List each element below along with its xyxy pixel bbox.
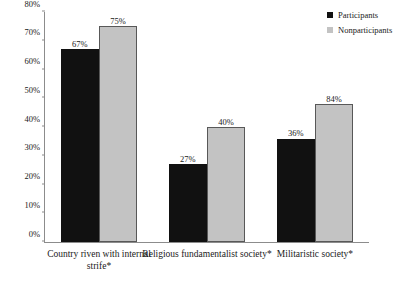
plot-area: 0%10%20%30%40%50%60%70%80% 67%75%Country… (44, 12, 369, 243)
y-axis-tick-label: 20% (24, 172, 40, 181)
y-axis-tick-label: 0% (29, 229, 40, 238)
y-axis-tick-label: 50% (24, 86, 40, 95)
bar-value-label: 36% (288, 129, 304, 138)
y-axis-tick-label: 30% (24, 143, 40, 152)
bar-value-label: 67% (72, 40, 88, 49)
bar-group: 27%40%Religious fundamentalist society* (153, 12, 261, 242)
bar-nonparticipants: 40% (207, 127, 245, 242)
bar-chart: Participants Nonparticipants 0%10%20%30%… (0, 0, 409, 285)
bar-value-label: 75% (110, 17, 126, 26)
bar-participants: 36% (277, 139, 315, 243)
y-axis-tick-label: 40% (24, 114, 40, 123)
x-axis-category-label: Militaristic society* (250, 248, 380, 260)
bar-group: 67%75%Country riven with internal strife… (45, 12, 153, 242)
bar-value-label: 27% (180, 155, 196, 164)
bar-participants: 27% (169, 164, 207, 242)
y-axis-tick-label: 60% (24, 57, 40, 66)
bar-value-label: 84% (326, 95, 342, 104)
y-axis-tick-label: 70% (24, 28, 40, 37)
y-axis-tick-label: 80% (24, 0, 40, 8)
bar-value-label: 40% (218, 118, 234, 127)
bar-group: 36%84%Militaristic society* (261, 12, 369, 242)
y-axis-tick-label: 10% (24, 201, 40, 210)
bar-nonparticipants: 84% (315, 104, 353, 242)
bar-participants: 67% (61, 49, 99, 242)
bar-nonparticipants: 75% (99, 26, 137, 242)
